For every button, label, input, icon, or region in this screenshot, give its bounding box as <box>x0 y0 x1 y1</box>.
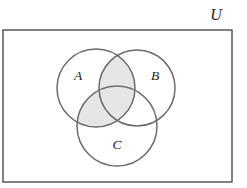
set-label-b: B <box>151 68 159 83</box>
venn-diagram-canvas: A B C U <box>0 0 247 188</box>
set-label-c: C <box>112 137 122 152</box>
set-label-a: A <box>73 68 83 83</box>
universal-set-label: U <box>210 6 223 23</box>
venn-diagram-figure: A B C U <box>0 0 247 188</box>
